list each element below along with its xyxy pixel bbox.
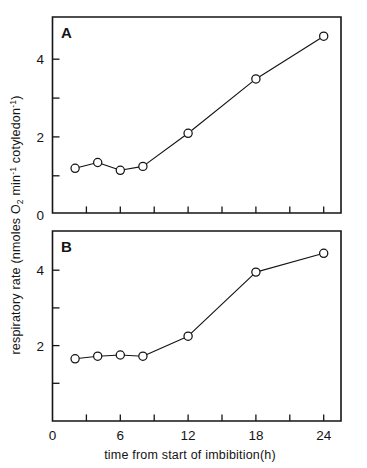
panel-a-point-8h [139,162,147,170]
respiratory-rate-figure: 4 2 0 A [0,0,367,468]
panel-b-x-ticks [86,414,323,421]
panel-b-point-8h [139,352,147,360]
figure-container: 4 2 0 A [0,0,367,468]
panel-b-xtick-label-12: 12 [181,428,196,443]
panel-b-xtick-label-0: 0 [49,428,57,443]
panel-a: 4 2 0 A [36,17,341,223]
panel-b-xtick-label-6: 6 [117,428,125,443]
panel-a-point-18h [252,75,260,83]
panel-b-y-ticks [53,270,60,383]
panel-b-xtick-label-24: 24 [316,428,332,443]
panel-a-point-6h [116,166,124,174]
y-axis-title-sup-b: -1 [8,100,18,108]
panel-a-ytick-label-2: 2 [36,130,44,145]
panel-a-label: A [61,24,72,41]
panel-b-data-points [71,249,328,363]
y-axis-title-part-5: ) [9,95,23,99]
y-axis-title-part-3: min [9,175,23,199]
x-axis-title-group: time from start of imbibition(h) [104,448,276,462]
panel-a-ytick-label-4: 4 [36,52,44,67]
y-axis-title-part-1: respiratory rate (nmoles O [9,204,23,354]
panel-a-y-ticks [53,59,60,176]
x-axis-title-part-2: (h) [260,448,276,462]
panel-b-point-24h [320,249,328,257]
panel-b-frame [53,231,342,421]
y-axis-title-sup-a: -1 [8,167,18,175]
panel-a-point-2h [71,164,79,172]
panel-b-xtick-label-18: 18 [248,428,263,443]
y-axis-title-group: respiratory rate (nmoles O2 min-1 cotyle… [8,95,25,354]
y-axis-title: respiratory rate (nmoles O2 min-1 cotyle… [8,95,25,354]
panel-a-x-ticks [86,206,323,213]
panel-b-point-6h [116,351,124,359]
panel-a-data-line [75,36,324,170]
panel-a-frame [53,17,342,213]
panel-a-data-points [71,32,328,174]
panel-b-data-line [75,253,324,358]
panel-b-ytick-label-4: 4 [36,263,44,278]
panel-a-ytick-label-0: 0 [36,208,44,223]
panel-a-point-4h [94,158,102,166]
panel-b-point-2h [71,355,79,363]
panel-a-point-24h [320,32,328,40]
panel-b-label: B [61,238,72,255]
y-axis-title-part-4: cotyledon [9,108,23,167]
panel-b-point-4h [94,352,102,360]
x-axis-title-part-1: time from start of imbibition [104,448,260,462]
panel-b-ytick-label-2: 2 [36,339,44,354]
x-axis-title: time from start of imbibition(h) [104,448,276,462]
panel-b-point-18h [252,268,260,276]
panel-a-point-12h [184,129,192,137]
panel-b-point-12h [184,332,192,340]
panel-b: 4 2 B 0 6 12 18 24 [36,231,341,443]
